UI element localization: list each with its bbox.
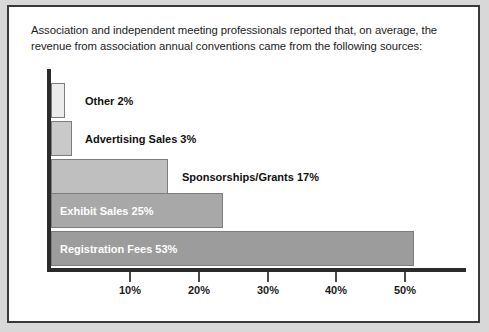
x-tick-20 xyxy=(198,272,200,282)
x-tick-label-20: 20% xyxy=(188,284,210,296)
bar-label-sponsorships-grants: Sponsorships/Grants 17% xyxy=(182,171,319,183)
x-tick-50 xyxy=(404,272,406,282)
x-tick-label-50: 50% xyxy=(394,284,416,296)
bar-label-registration-fees: Registration Fees 53% xyxy=(60,243,177,255)
bar-chart: 10% 20% 30% 40% 50% Other 2% Advertising… xyxy=(9,7,482,325)
x-tick-30 xyxy=(267,272,269,282)
bar-sponsorships-grants xyxy=(51,159,168,194)
x-tick-10 xyxy=(129,272,131,282)
bar-label-exhibit-sales: Exhibit Sales 25% xyxy=(60,205,154,217)
x-tick-label-10: 10% xyxy=(119,284,141,296)
bar-advertising-sales xyxy=(51,121,72,156)
bar-other xyxy=(51,83,65,118)
x-tick-label-30: 30% xyxy=(257,284,279,296)
x-tick-40 xyxy=(335,272,337,282)
bar-label-other: Other 2% xyxy=(85,95,133,107)
chart-panel: Association and independent meeting prof… xyxy=(7,5,480,323)
x-tick-label-40: 40% xyxy=(325,284,347,296)
bar-label-advertising-sales: Advertising Sales 3% xyxy=(85,133,196,145)
